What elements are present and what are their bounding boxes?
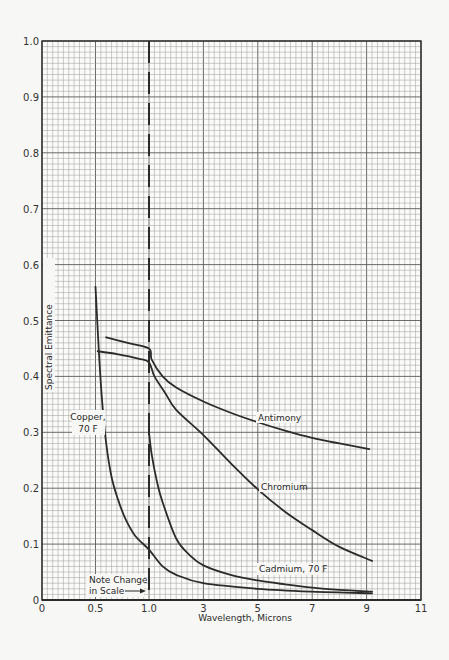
y-axis-label: Spectral Emittance [44,304,54,390]
y-tick-label: 0.4 [23,371,39,382]
y-tick-label: 0.5 [23,316,39,327]
y-tick-label: 0.2 [23,483,39,494]
y-tick-label: 0.7 [23,204,39,215]
copper-label-line2: 70 F [78,424,98,434]
chromium-label: Chromium [259,481,308,492]
cadmium-label-text: Cadmium, 70 F [259,564,327,574]
antimony-label: Antimony [256,412,302,423]
x-tick-label: 0.5 [88,603,104,614]
copper-label: Copper, 70 F [70,410,105,435]
y-tick-label: 0.1 [23,539,39,550]
x-tick-label: 1.0 [141,603,157,614]
y-tick-label: 1.0 [23,36,39,47]
x-tick-label: 0 [39,603,45,614]
y-axis-title: Spectral Emittance [43,258,55,392]
chart-grid [42,41,421,600]
x-tick-label: 11 [415,603,428,614]
note-line2: in Scale [89,586,125,596]
chromium-label-text: Chromium [261,482,308,492]
y-tick-label: 0.6 [23,260,39,271]
note-change-in-scale: Note Change in Scale [86,574,148,597]
copper-label-line1: Copper, [70,412,105,422]
antimony-label-text: Antimony [258,413,302,423]
y-tick-label: 0.3 [23,427,39,438]
x-axis-label: Wavelength, Microns [198,613,292,623]
x-tick-label: 7 [309,603,315,614]
y-axis-ticks: 00.10.20.30.40.50.60.70.80.91.0 [23,36,39,606]
y-tick-label: 0.8 [23,148,39,159]
x-tick-label: 9 [363,603,369,614]
cadmium-label: Cadmium, 70 F [257,563,327,575]
y-tick-label: 0.9 [23,92,39,103]
note-line1: Note Change [89,575,148,585]
spectral-emittance-chart: 00.10.20.30.40.50.60.70.80.91.0 00.51.03… [0,0,449,660]
